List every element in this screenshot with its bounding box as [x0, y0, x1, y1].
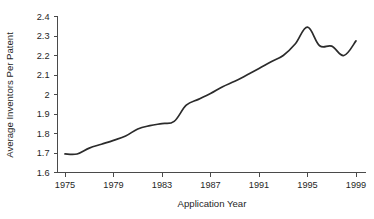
x-axis-tick-label: 1991	[249, 180, 269, 190]
y-axis-tick-label: 2.3	[37, 31, 50, 41]
x-axis-tick-group: 1975197919831987199119951999	[55, 173, 366, 190]
y-axis-title: Average Inventors Per Patent	[4, 32, 15, 158]
y-axis-tick-label: 2	[44, 90, 49, 100]
x-axis-tick-label: 1979	[103, 180, 123, 190]
y-axis-tick-label: 2.4	[37, 12, 50, 22]
x-axis-tick-label: 1983	[152, 180, 172, 190]
y-axis-tick-label: 1.8	[37, 129, 50, 139]
line-chart-canvas: 1.61.71.81.922.12.22.32.4 19751979198319…	[0, 0, 374, 219]
y-axis-tick-label: 2.1	[37, 70, 50, 80]
chart-figure: 1.61.71.81.922.12.22.32.4 19751979198319…	[0, 0, 374, 219]
y-axis-tick-label: 1.6	[37, 168, 50, 178]
x-axis-tick-label: 1975	[55, 180, 75, 190]
x-axis-tick-label: 1999	[346, 180, 366, 190]
series-line-average-inventors-per-patent	[65, 27, 356, 154]
y-axis-tick-group: 1.61.71.81.922.12.22.32.4	[37, 12, 58, 178]
y-axis-tick-label: 1.9	[37, 109, 50, 119]
x-axis-tick-label: 1995	[297, 180, 317, 190]
y-axis-tick-label: 1.7	[37, 148, 50, 158]
x-axis-tick-label: 1987	[200, 180, 220, 190]
y-axis-tick-label: 2.2	[37, 51, 50, 61]
x-axis-title: Application Year	[178, 198, 248, 209]
